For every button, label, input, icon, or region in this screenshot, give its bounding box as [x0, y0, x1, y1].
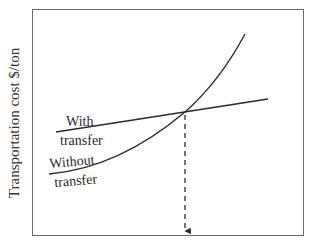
with-transfer-label-2: transfer — [60, 134, 103, 148]
plot-area — [0, 0, 312, 246]
with-transfer-label-1: With — [66, 115, 93, 129]
